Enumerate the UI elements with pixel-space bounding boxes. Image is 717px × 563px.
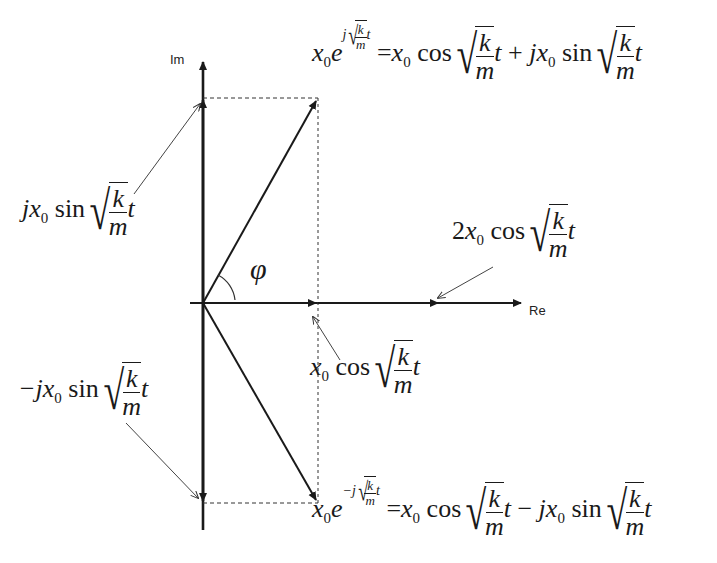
pointer-re-sum <box>438 267 493 298</box>
exponent: j√kmt <box>343 20 371 51</box>
top-equation: x0ej√kmt =x0 cos√kmt + jx0 sin√kmt <box>312 20 642 84</box>
angle-label: φ <box>250 252 267 286</box>
bottom-equation: x0e−j√kmt =x0 cos√kmt − jx0 sin√kmt <box>312 476 651 540</box>
exponent: −j√kmt <box>343 476 380 507</box>
re-projection-label: x0 cos√kmt <box>310 340 420 399</box>
angle-arc <box>218 275 235 300</box>
pointer-im-positive <box>134 104 200 194</box>
im-axis-label: Im <box>170 52 184 67</box>
im-negative-label: −jx0 sin√kmt <box>18 362 148 421</box>
im-positive-label: jx0 sin√kmt <box>22 182 135 241</box>
pointer-im-negative <box>126 423 198 498</box>
negative-phasor <box>203 303 316 500</box>
re-sum-label: 2x0 cos√kmt <box>452 204 575 263</box>
re-axis-label: Re <box>529 303 546 318</box>
